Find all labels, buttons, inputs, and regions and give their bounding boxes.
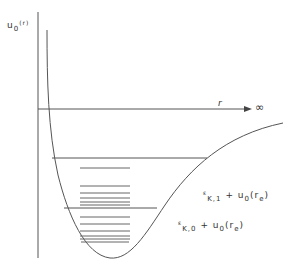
arg-open: (r bbox=[225, 220, 234, 230]
plus-u: + u bbox=[222, 190, 245, 200]
lower-level-group bbox=[80, 217, 130, 242]
sub-k1: K,1 bbox=[207, 195, 221, 203]
y-label-main: u bbox=[7, 20, 14, 30]
y-label-sub: 0 bbox=[14, 25, 19, 33]
plus-u: + u bbox=[197, 220, 220, 230]
re-sub: e bbox=[259, 195, 264, 203]
re-sub: e bbox=[234, 225, 239, 233]
level-label-k0: εK,0 + u0(re) bbox=[178, 220, 244, 230]
u-sub: 0 bbox=[245, 195, 250, 203]
level-label-k1: εK,1 + u0(re) bbox=[203, 190, 269, 200]
arg-close: ) bbox=[265, 190, 270, 200]
y-axis-label: u0(r) bbox=[7, 20, 29, 30]
sub-k0: K,0 bbox=[182, 225, 196, 233]
upper-level-group bbox=[80, 168, 130, 205]
arg-open: (r bbox=[250, 190, 259, 200]
x-axis-label: r bbox=[218, 98, 223, 108]
diagram-graphics bbox=[0, 0, 306, 268]
arg-close: ) bbox=[240, 220, 245, 230]
x-axis-arrow-icon bbox=[244, 106, 252, 112]
infinity-label: ∞ bbox=[255, 101, 265, 114]
u-sub: 0 bbox=[220, 225, 225, 233]
potential-energy-diagram: u0(r) r ∞ εK,1 + u0(re) εK,0 + u0(re) bbox=[0, 0, 306, 268]
y-label-arg: (r) bbox=[19, 19, 29, 26]
